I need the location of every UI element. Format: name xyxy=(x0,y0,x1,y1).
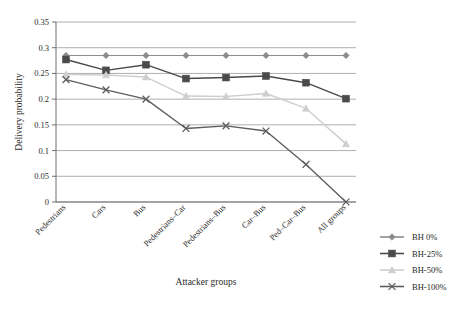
x-tick-label: Ped–Car–Bus xyxy=(267,202,307,242)
x-tick-label: Cars xyxy=(89,202,107,220)
chart-canvas: 00.050.10.150.20.250.30.35PedestriansCar… xyxy=(0,0,471,309)
legend-label: BH 0% xyxy=(412,232,437,242)
y-tick-label: 0.15 xyxy=(34,120,49,130)
x-tick-label: Pedestrians xyxy=(33,202,67,236)
marker-square xyxy=(223,74,230,81)
y-tick-label: 0 xyxy=(45,197,49,207)
legend-item[interactable]: BH 0% xyxy=(380,232,437,242)
marker-diamond xyxy=(143,52,149,58)
series-bh-25 xyxy=(63,56,350,102)
x-tick-label: Car–Bus xyxy=(239,202,267,230)
legend: BH 0%BH-25%BH-50%BH-100% xyxy=(380,232,446,292)
series-group xyxy=(62,52,349,205)
marker-square xyxy=(143,61,150,68)
y-tick-label: 0.3 xyxy=(38,43,49,53)
legend-item[interactable]: BH-25% xyxy=(380,249,442,259)
marker-square xyxy=(343,95,350,102)
x-tick-label: All groups xyxy=(315,202,348,235)
y-tick-label: 0.1 xyxy=(38,146,49,156)
marker-diamond xyxy=(103,52,109,58)
x-axis-title: Attacker groups xyxy=(176,277,237,287)
legend-label: BH-100% xyxy=(412,282,446,292)
series-line xyxy=(66,80,346,202)
marker-x xyxy=(303,161,310,168)
marker-diamond xyxy=(303,52,309,58)
y-tick-label: 0.05 xyxy=(34,171,49,181)
legend-label: BH-25% xyxy=(412,249,442,259)
y-tick-label: 0.35 xyxy=(34,17,49,27)
gridlines: 00.050.10.150.20.250.30.35 xyxy=(34,17,356,207)
y-tick-label: 0.25 xyxy=(34,68,49,78)
marker-square xyxy=(183,75,190,82)
marker-diamond xyxy=(389,234,395,240)
y-axis-title: Delivery probability xyxy=(14,73,24,151)
y-tick-label: 0.2 xyxy=(38,94,49,104)
x-tick-labels: PedestriansCarsBusPedestrians–CarPedestr… xyxy=(33,202,347,249)
legend-item[interactable]: BH-100% xyxy=(380,282,446,292)
legend-item[interactable]: BH-50% xyxy=(380,265,442,275)
legend-label: BH-50% xyxy=(412,265,442,275)
marker-square xyxy=(63,56,70,63)
marker-diamond xyxy=(343,52,349,58)
series-bh-100 xyxy=(63,76,350,205)
marker-square xyxy=(389,250,396,257)
delivery-probability-chart: 00.050.10.150.20.250.30.35PedestriansCar… xyxy=(0,0,471,309)
marker-diamond xyxy=(263,52,269,58)
marker-diamond xyxy=(223,52,229,58)
marker-square xyxy=(263,73,270,80)
series-bh-0 xyxy=(63,52,349,58)
x-tick-label: Pedestrians–Bus xyxy=(181,202,228,249)
marker-square xyxy=(303,79,310,86)
x-tick-label: Bus xyxy=(131,202,147,218)
marker-diamond xyxy=(183,52,189,58)
